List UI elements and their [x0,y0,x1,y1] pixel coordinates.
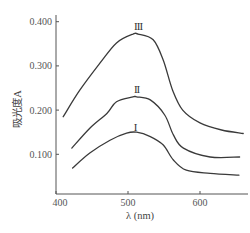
series-label-I: I [134,121,138,133]
series-label-II: II [134,83,141,95]
x-tick-label: 500 [121,197,136,208]
y-axis-title: 吸光度A [11,90,23,128]
y-ticks: 0.100 0.200 0.300 0.400 [30,16,60,160]
series-line-III [63,33,243,133]
x-tick-label: 400 [53,197,68,208]
y-tick-label: 0.300 [30,60,53,71]
y-tick-label: 0.400 [30,16,53,27]
series-label-III: III [134,20,143,32]
series-line-I [73,132,239,175]
absorption-spectrum-chart: 0.100 0.200 0.300 0.400 400 500 600 λ (n… [0,0,250,233]
y-tick-label: 0.100 [30,149,53,160]
series-layer: IIIIII [63,20,243,175]
x-axis-title: λ (nm) [126,210,155,222]
x-tick-label: 600 [193,197,208,208]
y-tick-label: 0.200 [30,105,53,116]
